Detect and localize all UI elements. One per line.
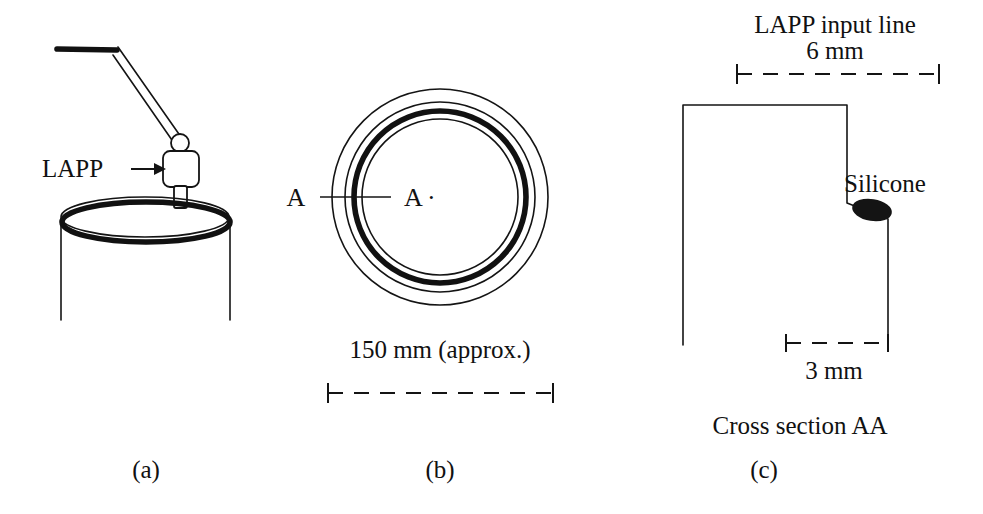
panel-c-top-dimension-line: [737, 64, 939, 84]
panel-b-label: (b): [425, 456, 454, 484]
panel-c-top-label-line2: 6 mm: [806, 37, 864, 64]
figure-canvas: LAPP (a) A A · 150 mm (approx.) (b) LAPP…: [0, 0, 983, 514]
panel-c-bottom-dimension-line: [786, 334, 888, 352]
panel-a-probe-label: LAPP: [42, 155, 103, 182]
probe-body-icon: [163, 151, 199, 187]
panel-c-caption: Cross section AA: [713, 412, 888, 439]
section-letter-left: A: [287, 183, 306, 212]
panel-c-bottom-dimension-label: 3 mm: [805, 357, 863, 384]
probe-arm-upper-edge-icon: [118, 47, 181, 137]
section-letter-right: A: [404, 183, 423, 212]
probe-joint-icon: [171, 134, 189, 152]
silicone-bead-icon: [851, 196, 894, 224]
figure-root: LAPP (a) A A · 150 mm (approx.) (b) LAPP…: [0, 0, 983, 514]
panel-c-silicone-label: Silicone: [844, 170, 926, 197]
vessel-rim-outer-icon: [62, 202, 230, 242]
cross-section-profile-icon: [683, 105, 888, 345]
panel-c-group: [683, 105, 893, 345]
probe-arm-lower-edge-icon: [113, 55, 174, 143]
panel-c-label: (c): [750, 456, 778, 484]
section-dot-mark: ·: [427, 183, 436, 212]
lapp-cable-icon: [57, 49, 117, 50]
panel-b-dimension-line: [328, 383, 553, 403]
panel-a-label: (a): [132, 456, 160, 484]
panel-a-group: [57, 47, 230, 320]
panel-c-top-label-line1: LAPP input line: [754, 11, 916, 38]
panel-b-dimension-label: 150 mm (approx.): [349, 336, 530, 364]
